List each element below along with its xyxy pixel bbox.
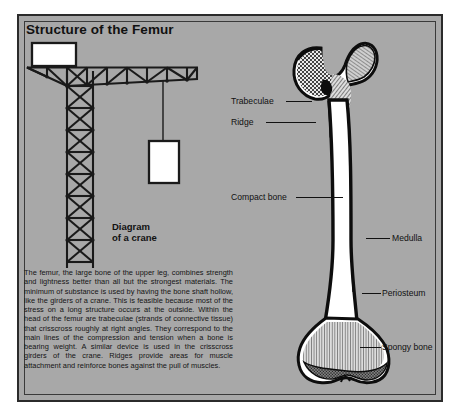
- crane-caption-line-2: of a crane: [112, 232, 157, 243]
- leader-line-ridge: [266, 122, 316, 123]
- crane-caption-line-1: Diagram: [112, 221, 157, 232]
- leader-line-trabeculae: [286, 101, 312, 102]
- leader-line-periosteum: [362, 293, 381, 294]
- leader-line-compact-bone: [296, 197, 343, 198]
- crane-counterweight-box: [32, 43, 76, 66]
- leader-line-medulla: [366, 238, 390, 239]
- label-periosteum: Periosteum: [382, 288, 425, 298]
- femur-illustration: [285, 30, 405, 390]
- femur-shaft: [325, 100, 357, 322]
- figure-root: Structure of the Femur .gb { fill:#fffff…: [0, 0, 460, 417]
- page-title: Structure of the Femur: [26, 22, 174, 37]
- label-medulla: Medulla: [392, 233, 422, 243]
- label-spongy-bone: Spongy bone: [382, 342, 433, 352]
- body-text: The femur, the large bone of the upper l…: [24, 268, 233, 370]
- label-ridge: Ridge: [231, 117, 253, 127]
- crane-jib: [27, 68, 198, 88]
- label-compact-bone: Compact bone: [231, 192, 287, 202]
- crane-caption: Diagram of a crane: [112, 221, 157, 243]
- crane-tower: [65, 71, 94, 268]
- leader-line-spongy-bone: [360, 347, 381, 348]
- femur-distal-end: [298, 318, 389, 383]
- crane-load: [149, 80, 179, 183]
- intercondylar-notch: [341, 377, 350, 382]
- label-trabeculae: Trabeculae: [231, 96, 274, 106]
